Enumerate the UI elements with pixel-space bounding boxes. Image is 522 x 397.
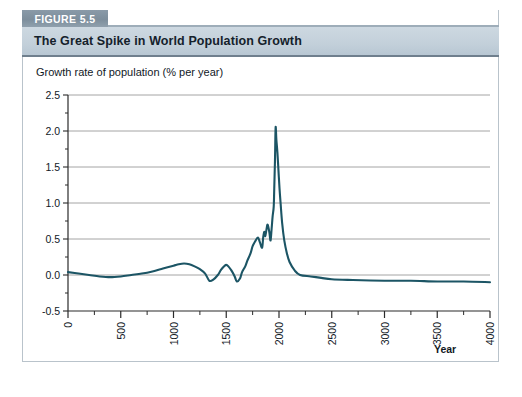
- x-tick-label: 500: [115, 322, 127, 340]
- y-tick-label: 0.5: [45, 233, 60, 245]
- y-tick-label: 1.5: [45, 161, 60, 173]
- x-tick-label: 4000: [484, 322, 496, 346]
- y-tick-label: 0.0: [45, 269, 60, 281]
- x-tick-label: 2500: [326, 322, 338, 346]
- figure-number-badge: FIGURE 5.5: [22, 10, 108, 27]
- line-chart: -0.50.00.51.01.52.02.5050010001500200025…: [22, 57, 499, 362]
- figure-number-label: FIGURE 5.5: [34, 13, 95, 25]
- x-tick-label: 3000: [379, 322, 391, 346]
- y-tick-label: 2.0: [45, 125, 60, 137]
- y-tick-label: 1.0: [45, 197, 60, 209]
- figure-title: The Great Spike in World Population Grow…: [34, 34, 302, 48]
- figure-title-bar: The Great Spike in World Population Grow…: [22, 27, 499, 55]
- title-underline: [22, 55, 499, 57]
- x-tick-label: 3500: [431, 322, 443, 346]
- y-tick-label: 2.5: [45, 89, 60, 101]
- chart-container: Growth rate of population (% per year) Y…: [22, 57, 499, 362]
- x-tick-label: 1500: [220, 322, 232, 346]
- x-tick-label: 1000: [168, 322, 180, 346]
- x-tick-label: 0: [62, 322, 74, 328]
- y-tick-label: -0.5: [42, 305, 60, 317]
- x-tick-label: 2000: [273, 322, 285, 346]
- data-line-world-population-growth: [68, 127, 490, 282]
